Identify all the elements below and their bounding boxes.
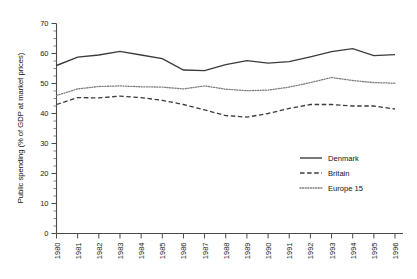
x-tick-label: 1983 <box>116 243 125 260</box>
legend-label-britain: Britain <box>328 169 350 178</box>
y-tick-label: 10 <box>40 199 48 208</box>
x-tick-label: 1995 <box>370 243 379 260</box>
x-tick-label: 1980 <box>53 243 62 260</box>
x-tick-label: 1988 <box>222 243 231 260</box>
y-axis-title: Public spending (% of GDP at market pric… <box>16 52 25 203</box>
x-tick-label: 1991 <box>285 243 294 260</box>
y-tick-label: 30 <box>40 139 48 148</box>
chart-svg: Public spending (% of GDP at market pric… <box>0 0 417 279</box>
series-line-britain <box>57 96 396 117</box>
y-tick-group: 010203040506070 <box>40 19 56 238</box>
x-tick-label: 1989 <box>243 243 252 260</box>
x-tick-label: 1993 <box>328 243 337 260</box>
y-tick-label: 50 <box>40 79 48 88</box>
x-tick-label: 1985 <box>158 243 167 260</box>
y-axis-title-text: Public spending (% of GDP at market pric… <box>16 52 25 203</box>
series-group <box>57 49 396 117</box>
y-tick-label: 40 <box>40 109 48 118</box>
x-tick-label: 1994 <box>349 243 358 260</box>
y-tick-label: 0 <box>44 229 48 238</box>
x-tick-label: 1987 <box>201 243 210 260</box>
line-chart: Public spending (% of GDP at market pric… <box>0 0 417 279</box>
x-tick-label: 1986 <box>179 243 188 260</box>
y-tick-label: 60 <box>40 49 48 58</box>
y-tick-label: 70 <box>40 19 48 28</box>
x-tick-label: 1996 <box>391 243 400 260</box>
x-tick-group: 1980198119821983198419851986198719881989… <box>53 234 401 260</box>
legend-label-denmark: Denmark <box>328 154 359 163</box>
x-tick-label: 1984 <box>137 243 146 260</box>
x-tick-label: 1981 <box>74 243 83 260</box>
series-line-denmark <box>57 49 396 71</box>
y-tick-label: 20 <box>40 169 48 178</box>
x-tick-label: 1982 <box>95 243 104 260</box>
series-line-europe-15 <box>57 78 396 96</box>
legend-label-europe-15: Europe 15 <box>328 184 363 193</box>
x-tick-label: 1992 <box>306 243 315 260</box>
x-tick-label: 1990 <box>264 243 273 260</box>
legend: DenmarkBritainEurope 15 <box>300 154 363 193</box>
axes <box>57 24 404 234</box>
